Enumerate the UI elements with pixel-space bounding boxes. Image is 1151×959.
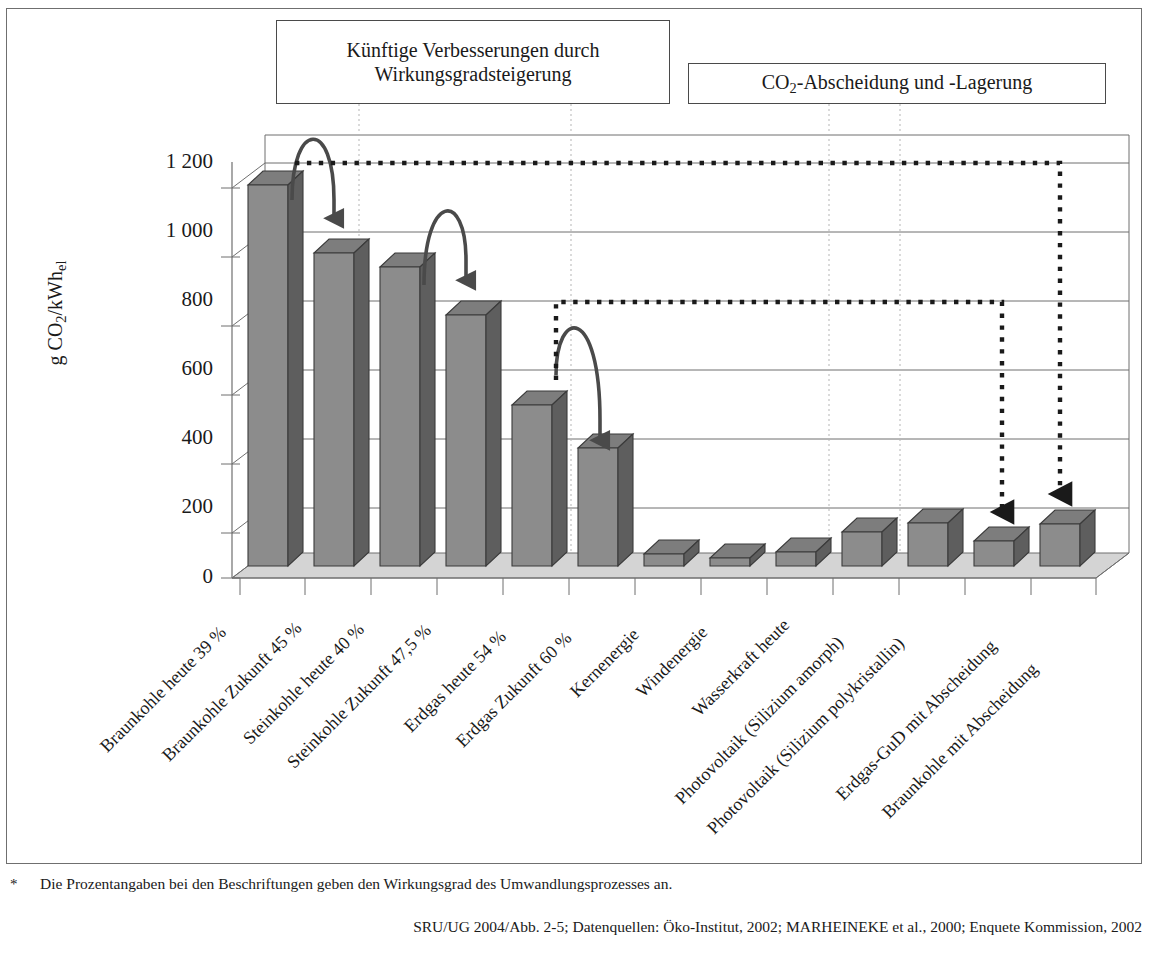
callout-ccs-subscript: 2 — [790, 80, 797, 96]
y-axis-title-sub2: el — [53, 261, 69, 271]
footnote: * Die Prozentangaben bei den Beschriftun… — [10, 875, 1140, 893]
y-axis-title-sub1: 2 — [53, 315, 69, 322]
bar-photovoltaik-poly[interactable] — [908, 509, 963, 566]
bar-erdgas-zukunft[interactable] — [578, 434, 633, 566]
y-axis-title-pre: g CO — [44, 323, 66, 366]
callout-efficiency-line1: Künftige Verbesserungen durch — [347, 39, 600, 61]
bar-erdgas-heute[interactable] — [512, 391, 567, 566]
callout-ccs-post: -Abscheidung und -Lagerung — [797, 71, 1033, 93]
y-tick-label-1000: 1 000 — [103, 220, 213, 241]
callout-efficiency-line2: Wirkungsgradsteigerung — [375, 63, 572, 85]
chart-canvas — [0, 0, 1151, 959]
footnote-text: Die Prozentangaben bei den Beschriftunge… — [40, 875, 1140, 893]
callout-ccs-pre: CO — [762, 71, 790, 93]
y-tick-label-800: 800 — [103, 289, 213, 310]
bar-steinkohle-zukunft[interactable] — [446, 301, 501, 566]
y-axis-title: g CO2/kWhel — [44, 203, 70, 423]
bar-braunkohle-abscheidung[interactable] — [1040, 510, 1095, 566]
source-caption: SRU/UG 2004/Abb. 2-5; Datenquellen: Öko-… — [10, 918, 1142, 936]
y-tick-label-0: 0 — [103, 566, 213, 587]
y-tick-label-1200: 1 200 — [103, 151, 213, 172]
footnote-marker: * — [10, 876, 18, 893]
y-tick-label-600: 600 — [103, 358, 213, 379]
bar-braunkohle-zukunft[interactable] — [314, 239, 369, 566]
bar-photovoltaik-amorph[interactable] — [842, 518, 897, 566]
callout-efficiency: Künftige Verbesserungen durch Wirkungsgr… — [276, 20, 670, 104]
figure-page: Künftige Verbesserungen durch Wirkungsgr… — [0, 0, 1151, 959]
bar-steinkohle-heute[interactable] — [380, 253, 435, 566]
y-tick-label-200: 200 — [103, 496, 213, 517]
y-tick-label-400: 400 — [103, 427, 213, 448]
callout-ccs: CO2-Abscheidung und -Lagerung — [688, 63, 1106, 104]
bar-braunkohle-heute[interactable] — [248, 171, 303, 566]
bar-erdgas-gud-abscheidung[interactable] — [974, 527, 1029, 566]
y-axis-title-mid: /kWh — [44, 271, 66, 315]
